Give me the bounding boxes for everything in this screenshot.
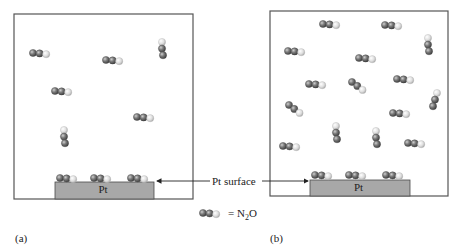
nitrogen-atom — [345, 171, 352, 178]
nitrogen-atom — [158, 45, 165, 52]
legend: = N2O — [228, 207, 257, 222]
oxygen-atom — [60, 126, 67, 133]
nitrogen-atom — [373, 141, 380, 148]
nitrogen-atom — [305, 80, 312, 87]
nitrogen-atom — [312, 81, 319, 88]
nitrogen-atom — [355, 54, 362, 61]
nitrogen-atom — [127, 174, 134, 181]
legend-equation-tail: O — [249, 207, 257, 219]
nitrogen-atom — [199, 209, 206, 216]
n2o-molecule — [60, 126, 68, 146]
nitrogen-atom — [425, 48, 432, 55]
n2o-molecule — [319, 20, 339, 28]
nitrogen-atom — [109, 57, 116, 64]
oxygen-atom — [418, 141, 425, 148]
nitrogen-atom — [97, 175, 104, 182]
oxygen-atom — [424, 34, 431, 41]
nitrogen-atom — [382, 171, 389, 178]
nitrogen-atom — [318, 172, 325, 179]
oxygen-atom — [433, 89, 440, 96]
nitrogen-atom — [352, 172, 359, 179]
nitrogen-atom — [140, 114, 147, 121]
panel-label-a: (a) — [15, 232, 27, 244]
n2o-molecule — [389, 109, 409, 117]
n2o-molecule — [285, 101, 303, 116]
panel-label-b: (b) — [270, 232, 283, 244]
nitrogen-atom — [411, 140, 418, 147]
nitrogen-atom — [429, 103, 436, 110]
n2o-molecule — [424, 34, 432, 54]
n2o-molecule — [381, 21, 401, 29]
nitrogen-atom — [431, 96, 438, 103]
n2o-molecule — [382, 171, 402, 179]
oxygen-atom — [325, 173, 332, 180]
n2o-molecule — [102, 56, 122, 64]
n2o-molecule — [305, 80, 325, 88]
oxygen-atom — [65, 89, 72, 96]
nitrogen-atom — [400, 76, 407, 83]
oxygen-atom — [43, 51, 50, 58]
oxygen-atom — [298, 49, 305, 56]
oxygen-atom — [158, 38, 165, 45]
n2o-molecule — [199, 209, 219, 217]
nitrogen-atom — [159, 52, 166, 59]
oxygen-atom — [104, 176, 111, 183]
legend-molecule-icon — [199, 209, 219, 217]
nitrogen-atom — [284, 47, 291, 54]
oxygen-atom — [293, 144, 300, 151]
nitrogen-atom — [388, 22, 395, 29]
n2o-molecule — [279, 142, 299, 150]
n2o-molecule — [404, 139, 424, 147]
oxygen-atom — [70, 176, 77, 183]
nitrogen-atom — [362, 55, 369, 62]
nitrogen-atom — [279, 142, 286, 149]
n2o-molecule — [284, 47, 304, 55]
nitrogen-atom — [36, 50, 43, 57]
n2o-molecule — [348, 78, 366, 93]
container-box-a — [14, 14, 193, 199]
n2o-molecule — [29, 49, 49, 57]
n2o-molecule — [372, 127, 380, 147]
oxygen-atom — [296, 109, 303, 116]
n2o-molecule — [51, 87, 71, 95]
oxygen-atom — [369, 56, 376, 63]
nitrogen-atom — [63, 175, 70, 182]
n2o-molecule — [345, 171, 365, 179]
container-box-b — [270, 11, 448, 196]
nitrogen-atom — [332, 129, 339, 136]
n2o-molecule — [393, 75, 413, 83]
n2o-molecule — [429, 89, 440, 109]
oxygen-atom — [396, 173, 403, 180]
nitrogen-atom — [326, 21, 333, 28]
nitrogen-atom — [404, 139, 411, 146]
nitrogen-atom — [333, 136, 340, 143]
nitrogen-atom — [381, 21, 388, 28]
nitrogen-atom — [133, 113, 140, 120]
nitrogen-atom — [206, 210, 213, 217]
nitrogen-atom — [311, 171, 318, 178]
oxygen-atom — [147, 115, 154, 122]
oxygen-atom — [213, 211, 220, 218]
oxygen-atom — [359, 86, 366, 93]
nitrogen-atom — [396, 110, 403, 117]
oxygen-atom — [141, 176, 148, 183]
nitrogen-atom — [372, 134, 379, 141]
oxygen-atom — [332, 122, 339, 129]
pt-block-label-a: Pt — [99, 183, 108, 195]
n2o-molecule — [332, 122, 340, 142]
nitrogen-atom — [61, 140, 68, 147]
nitrogen-atom — [319, 20, 326, 27]
nitrogen-atom — [51, 87, 58, 94]
nitrogen-atom — [389, 109, 396, 116]
n2o-molecule — [311, 171, 331, 179]
pt-block-label-b: Pt — [354, 181, 363, 193]
nitrogen-atom — [393, 75, 400, 82]
nitrogen-atom — [389, 172, 396, 179]
nitrogen-atom — [134, 175, 141, 182]
oxygen-atom — [359, 173, 366, 180]
oxygen-atom — [407, 77, 414, 84]
legend-equation: = N — [228, 207, 245, 219]
panel-b — [270, 11, 448, 196]
n2o-molecule — [158, 38, 166, 58]
n2o-molecule — [56, 174, 76, 182]
